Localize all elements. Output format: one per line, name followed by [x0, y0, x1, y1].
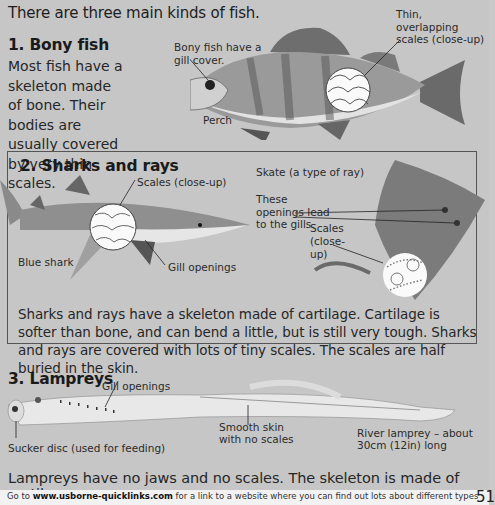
label-skate: Skate (a type of ray) — [256, 166, 364, 179]
page-number: 51 — [476, 488, 495, 505]
label-skate-scales-2: (close- — [310, 235, 345, 248]
label-thin-scales: Thin, overlapping scales (close-up) — [396, 8, 486, 46]
quicklinks-link[interactable]: www.usborne-quicklinks.com — [33, 491, 173, 501]
label-smooth-skin-2: with no scales — [219, 433, 294, 446]
label-skate-scales-1: Scales — [310, 222, 344, 235]
label-blue-shark: Blue shark — [18, 256, 74, 269]
footer-prefix: Go to — [7, 491, 33, 501]
sharks-rays-description: Sharks and rays have a skeleton made of … — [18, 305, 478, 377]
label-smooth-skin-1: Smooth skin — [219, 421, 284, 434]
label-gill-openings: Gill openings — [168, 261, 236, 274]
label-perch: Perch — [203, 114, 232, 127]
footer-suffix: for a link to a website where you can fi… — [173, 491, 479, 501]
label-lamprey-gill-openings: Gill openings — [102, 380, 170, 393]
label-skate-scales-3: up) — [310, 248, 327, 261]
label-shark-scales: Scales (close-up) — [137, 176, 226, 189]
heading-bony-fish: 1. Bony fish — [8, 36, 109, 54]
label-river-lamprey-2: 30cm (12in) long — [357, 439, 447, 452]
label-sucker-disc: Sucker disc (used for feeding) — [8, 442, 165, 455]
footer-bar: Go to www.usborne-quicklinks.com for a l… — [0, 490, 489, 505]
label-river-lamprey-1: River lamprey – about — [357, 427, 473, 440]
footer-text: Go to www.usborne-quicklinks.com for a l… — [7, 491, 478, 501]
book-page: There are three main kinds of fish. 1. B… — [0, 0, 489, 490]
label-gill-cover: Bony fish have a gill cover. — [174, 41, 264, 66]
